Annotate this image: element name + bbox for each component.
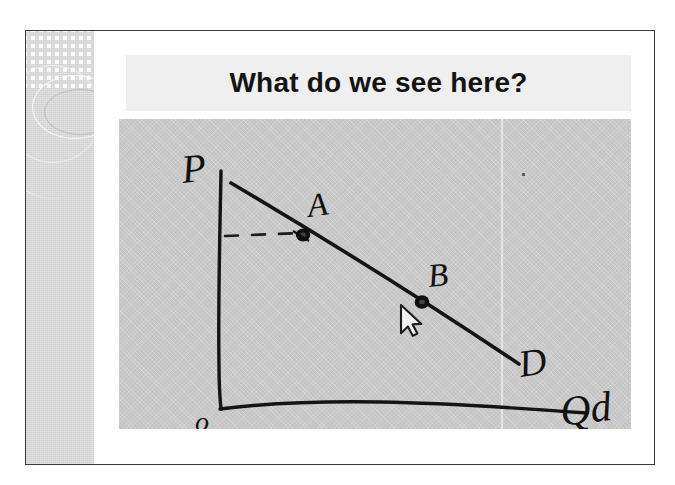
origin-label: o bbox=[195, 406, 209, 429]
point-a-marker bbox=[293, 229, 310, 242]
demand-curve-sketch: P A B D Qd o bbox=[119, 119, 631, 429]
mouse-pointer-icon bbox=[401, 305, 421, 336]
demand-curve-line bbox=[231, 183, 519, 364]
point-a-label: A bbox=[303, 185, 331, 224]
price-guide-dashed-line bbox=[225, 233, 301, 236]
y-axis-line bbox=[219, 171, 221, 409]
y-axis-label-p: P bbox=[178, 145, 208, 192]
page-title: What do we see here? bbox=[229, 67, 527, 99]
title-band: What do we see here? bbox=[126, 55, 631, 111]
decorative-swoosh-icon bbox=[26, 67, 94, 211]
x-axis-label-qd: Qd bbox=[557, 383, 615, 429]
decorative-sidebar-band bbox=[26, 31, 94, 464]
demand-curve-label-d: D bbox=[515, 339, 550, 385]
point-b-label: B bbox=[426, 256, 450, 294]
slide-frame: What do we see here? bbox=[25, 30, 655, 465]
point-b-marker bbox=[415, 295, 430, 309]
chart-image-panel: P A B D Qd o bbox=[119, 119, 631, 429]
x-axis-line bbox=[220, 402, 587, 413]
